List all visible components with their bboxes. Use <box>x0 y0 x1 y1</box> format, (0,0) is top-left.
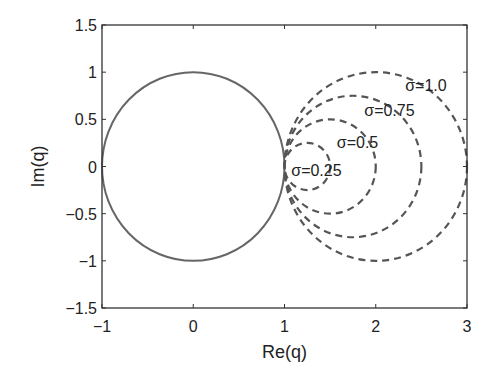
annotations: σ=1.0σ=0.75σ=0.5σ=0.25 <box>291 77 447 179</box>
tick-labels: −101231.510.50−0.5−1−1.5 <box>65 17 471 335</box>
y-tick-label: −0.5 <box>65 206 97 223</box>
sigma-annotation: σ=0.75 <box>364 102 414 119</box>
y-tick-label: −1.5 <box>65 300 97 317</box>
y-tick-label: 0 <box>88 159 97 176</box>
x-tick-label: −1 <box>93 318 111 335</box>
y-tick-label: −1 <box>79 253 97 270</box>
x-tick-label: 1 <box>280 318 289 335</box>
sigma-annotation: σ=0.5 <box>337 134 379 151</box>
x-tick-label: 0 <box>189 318 198 335</box>
chart-marks <box>102 72 467 261</box>
y-axis-label: Im(q) <box>28 146 48 188</box>
y-tick-label: 0.5 <box>75 111 97 128</box>
y-tick-label: 1 <box>88 64 97 81</box>
x-axis-label: Re(q) <box>262 342 307 362</box>
x-tick-label: 3 <box>463 318 472 335</box>
chart: −101231.510.50−0.5−1−1.5 σ=1.0σ=0.75σ=0.… <box>0 0 496 378</box>
x-tick-label: 2 <box>371 318 380 335</box>
sigma-annotation: σ=0.25 <box>291 162 341 179</box>
sigma-annotation: σ=1.0 <box>405 77 447 94</box>
series-unit-circle <box>102 72 285 261</box>
y-tick-label: 1.5 <box>75 17 97 34</box>
